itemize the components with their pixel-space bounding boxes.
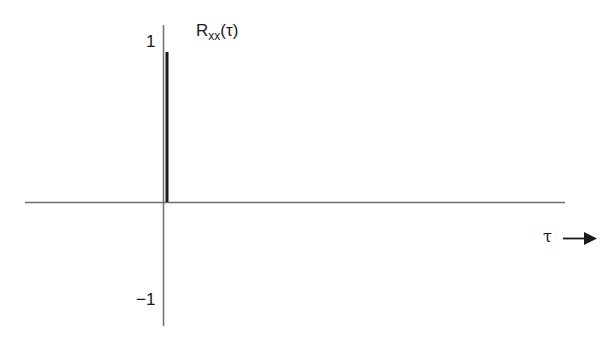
function-argument: (τ) xyxy=(220,21,238,40)
function-subscript: xx xyxy=(208,29,220,43)
x-axis-label: τ xyxy=(543,229,552,245)
y-tick-label-top: 1 xyxy=(146,33,155,50)
diagram-canvas xyxy=(0,0,613,342)
arrow-right-icon xyxy=(563,232,597,245)
function-symbol: R xyxy=(196,21,208,40)
function-label: Rxx(τ) xyxy=(196,22,238,42)
y-tick-label-bottom: −1 xyxy=(136,291,155,308)
